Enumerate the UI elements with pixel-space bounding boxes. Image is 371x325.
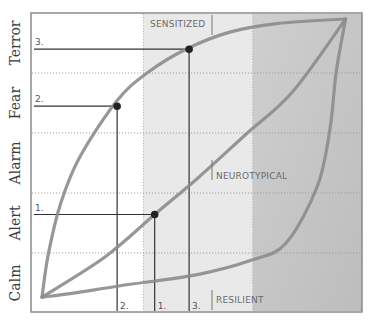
resilient-label: RESILIENT — [216, 295, 264, 305]
shaded-region-dark — [253, 14, 362, 311]
marker-dot — [113, 102, 121, 110]
y-level-label-alert: Alert — [7, 205, 23, 242]
marker-label-x: 1. — [158, 301, 167, 311]
marker-dot — [151, 211, 159, 219]
marker-label-y: 1. — [35, 203, 44, 213]
marker-label-y: 3. — [35, 37, 44, 47]
stress-response-chart: 1.1.2.2.3.3. CalmAlertAlarmFearTerror SE… — [0, 0, 371, 325]
y-level-label-alarm: Alarm — [7, 142, 23, 186]
sensitized-label: SENSITIZED — [150, 19, 205, 29]
y-level-label-fear: Fear — [7, 87, 23, 120]
y-level-label-calm: Calm — [7, 265, 23, 302]
marker-label-x: 3. — [192, 301, 201, 311]
marker-label-y: 2. — [35, 94, 44, 104]
y-level-label-terror: Terror — [7, 20, 23, 65]
marker-dot — [185, 45, 193, 53]
neurotypical-label: NEUROTYPICAL — [216, 171, 287, 181]
marker-label-x: 2. — [120, 301, 129, 311]
